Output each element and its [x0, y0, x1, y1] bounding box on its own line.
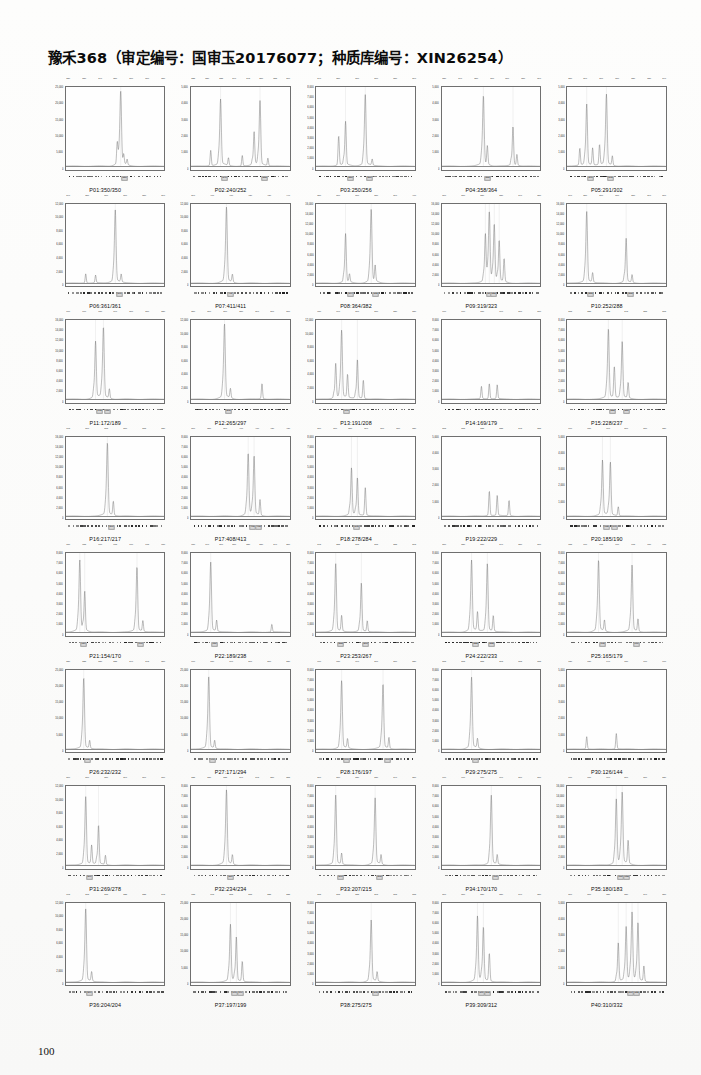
panel-plot[interactable]	[566, 319, 667, 404]
allele-bin-tick	[323, 642, 326, 644]
panel-plot[interactable]	[65, 552, 166, 637]
electropherogram-panel[interactable]: 2652752852953053158,0007,0006,0005,0004,…	[295, 894, 417, 1009]
electropherogram-panel[interactable]: 34035036037038039012,00010,0008,0006,000…	[44, 195, 166, 310]
xtick-label: 350	[537, 894, 541, 896]
allele-bin-tick	[515, 875, 518, 877]
allele-bin-tick	[404, 409, 405, 411]
ytick-label: 3,000	[433, 953, 439, 956]
panel-plot[interactable]	[566, 203, 667, 288]
panel-plot[interactable]	[315, 669, 416, 754]
electropherogram-panel[interactable]: 35036037038039040016,00014,00012,00010,0…	[295, 195, 417, 310]
panel-plot[interactable]	[65, 785, 166, 870]
panel-plot[interactable]	[441, 319, 542, 404]
panel-plot[interactable]	[190, 552, 291, 637]
panel-plot[interactable]	[315, 203, 416, 288]
panel-plot[interactable]	[65, 319, 166, 404]
allele-bin-tick	[644, 875, 645, 877]
electropherogram-panel[interactable]: 19520020521021522016,00014,00012,00010,0…	[44, 428, 166, 543]
panel-plot[interactable]	[566, 902, 667, 987]
electropherogram-panel[interactable]: 2802903003103203303405,0004,0003,0002,00…	[546, 78, 668, 193]
electropherogram-panel[interactable]: 26027028029030031012,00010,0008,0006,000…	[44, 777, 166, 892]
panel-plot[interactable]	[315, 436, 416, 521]
electropherogram-panel[interactable]: 2152252352452552658,0007,0006,0005,0004,…	[546, 311, 668, 426]
electropherogram-panel[interactable]: 1801902002102202302402508,0007,0006,0005…	[169, 544, 291, 659]
electropherogram-panel[interactable]: 1701801902002102208,0007,0006,0005,0004,…	[295, 661, 417, 776]
electropherogram-panel[interactable]: 25026027028029030031012,00010,0008,0006,…	[169, 311, 291, 426]
panel-plot[interactable]	[65, 902, 166, 987]
allele-bin-tick	[160, 292, 162, 294]
electropherogram-panel[interactable]: 18019020021022023012,00010,0008,0006,000…	[295, 311, 417, 426]
panel-plot[interactable]	[441, 86, 542, 171]
electropherogram-panel[interactable]: 1551601651701751801858,0007,0006,0005,00…	[546, 544, 668, 659]
panel-plot[interactable]	[190, 86, 291, 171]
allele-bin-tick	[507, 991, 509, 993]
allele-bin-tick	[198, 176, 201, 178]
ytick-label: 0	[312, 401, 313, 404]
electropherogram-panel[interactable]: 1201301401501601705,0004,0003,0002,0001,…	[546, 661, 668, 776]
panel-plot-area: 5,0004,0003,0002,0001,0000	[169, 86, 290, 171]
panel-plot[interactable]	[190, 319, 291, 404]
allele-size-call: 204	[86, 991, 92, 995]
panel-plot[interactable]	[566, 785, 667, 870]
allele-bin-tick	[87, 409, 88, 411]
panel-plot[interactable]	[441, 436, 542, 521]
panel-plot[interactable]	[190, 669, 291, 754]
panel-plot[interactable]	[190, 785, 291, 870]
electropherogram-panel[interactable]: 2452552652752852958,0007,0006,0005,0004,…	[295, 544, 417, 659]
ytick-label: 5,000	[558, 350, 564, 353]
electropherogram-panel[interactable]: 24025026027028029030016,00014,00012,0001…	[546, 195, 668, 310]
electropherogram-panel[interactable]: 17018019020021022016,00014,00012,00010,0…	[546, 777, 668, 892]
panel-plot[interactable]	[441, 552, 542, 637]
panel-plot[interactable]	[315, 902, 416, 987]
panel-plot[interactable]	[315, 86, 416, 171]
electropherogram-panel[interactable]: 16017018019020021022016,00014,00012,0001…	[44, 311, 166, 426]
allele-bin-tick	[216, 758, 217, 760]
panel-plot[interactable]	[566, 86, 667, 171]
electropherogram-panel[interactable]: 32033034035036037038025,00020,00015,0001…	[44, 78, 166, 193]
electropherogram-panel[interactable]: 30031032033034035016,00014,00012,00010,0…	[420, 195, 542, 310]
electropherogram-panel[interactable]: 2252302352402452502552605,0004,0003,0002…	[169, 78, 291, 193]
panel-plot[interactable]	[315, 319, 416, 404]
electropherogram-panel[interactable]: 3303403503603703803905,0004,0003,0002,00…	[420, 78, 542, 193]
panel-plot[interactable]	[441, 785, 542, 870]
panel-plot[interactable]	[190, 436, 291, 521]
panel-plot[interactable]	[65, 86, 166, 171]
electropherogram-panel[interactable]: 2102202302402502608,0007,0006,0005,0004,…	[420, 544, 542, 659]
allele-bin-tick	[123, 758, 125, 760]
panel-plot[interactable]	[441, 669, 542, 754]
electropherogram-panel[interactable]: 1701801902002102205,0004,0003,0002,0001,…	[546, 428, 668, 543]
panel-plot[interactable]	[65, 203, 166, 288]
panel-plot[interactable]	[65, 669, 166, 754]
electropherogram-panel[interactable]: 3003103203303403508,0007,0006,0005,0004,…	[420, 894, 542, 1009]
ytick-label: 0	[62, 983, 63, 986]
panel-plot[interactable]	[190, 203, 291, 288]
panel-plot[interactable]	[441, 203, 542, 288]
panel-plot[interactable]	[441, 902, 542, 987]
electropherogram-panel[interactable]: 2652752852953053158,0007,0006,0005,0004,…	[420, 661, 542, 776]
electropherogram-panel[interactable]: 1601701801902002108,0007,0006,0005,0004,…	[420, 777, 542, 892]
electropherogram-panel[interactable]: 2052152252352452555,0004,0003,0002,0001,…	[420, 428, 542, 543]
electropherogram-panel[interactable]: 2402502602702802908,0007,0006,0005,0004,…	[295, 78, 417, 193]
panel-plot[interactable]	[315, 552, 416, 637]
electropherogram-panel[interactable]: 2602702802903003103208,0007,0006,0005,00…	[295, 428, 417, 543]
electropherogram-panel[interactable]: 2252302352402452502558,0007,0006,0005,00…	[169, 777, 291, 892]
electropherogram-panel[interactable]: 22022523023524024525025,00020,00015,0001…	[44, 661, 166, 776]
electropherogram-panel[interactable]: 39040041042043044012,00010,0008,0006,000…	[169, 195, 291, 310]
electropherogram-panel[interactable]: 3703803904004104204308,0007,0006,0005,00…	[169, 428, 291, 543]
electropherogram-panel[interactable]: 1601701801902002108,0007,0006,0005,0004,…	[420, 311, 542, 426]
electropherogram-panel[interactable]: 1501551601651701751808,0007,0006,0005,00…	[44, 544, 166, 659]
panel-plot[interactable]	[566, 669, 667, 754]
electropherogram-panel[interactable]: 3003103203303403505,0004,0003,0002,0001,…	[546, 894, 668, 1009]
xtick-label: 245	[145, 661, 149, 663]
xtick-label: 285	[480, 661, 484, 663]
electropherogram-panel[interactable]: 18519520521522523525,00020,00015,00010,0…	[169, 894, 291, 1009]
electropherogram-panel[interactable]: 19520521522523524512,00010,0008,0006,000…	[44, 894, 166, 1009]
panel-plot[interactable]	[566, 552, 667, 637]
panel-plot[interactable]	[315, 785, 416, 870]
panel-plot[interactable]	[566, 436, 667, 521]
electropherogram-panel[interactable]: 2002102202302402508,0007,0006,0005,0004,…	[295, 777, 417, 892]
electropherogram-panel[interactable]: 17018019020021022025,00020,00015,00010,0…	[169, 661, 291, 776]
allele-size-call: 189	[212, 642, 218, 646]
panel-plot[interactable]	[65, 436, 166, 521]
panel-plot[interactable]	[190, 902, 291, 987]
